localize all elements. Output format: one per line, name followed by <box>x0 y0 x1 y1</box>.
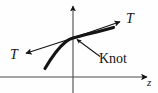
tangent-label-left: T <box>10 48 18 62</box>
figure-container: T T Knot z <box>0 0 158 93</box>
figure-canvas <box>0 0 158 93</box>
knot-label: Knot <box>99 52 127 66</box>
knot-leader-arrow <box>77 40 100 57</box>
axis-label-z: z <box>147 77 151 88</box>
tangent-label-right: T <box>126 12 134 26</box>
